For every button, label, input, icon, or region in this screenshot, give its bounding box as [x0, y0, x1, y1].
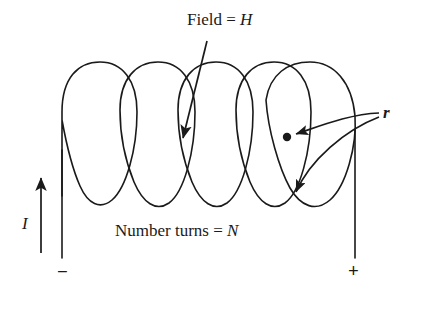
- field-label: Field = H: [187, 11, 252, 28]
- coil-windings: [62, 62, 355, 206]
- positive-terminal-label: +: [348, 261, 359, 280]
- turns-label: Number turns = N: [115, 222, 238, 239]
- radius-symbol-label: r: [383, 104, 390, 121]
- field-label-text: Field =: [187, 10, 240, 29]
- current-symbol-label: I: [22, 215, 28, 232]
- field-symbol: H: [240, 10, 252, 29]
- turns-symbol: N: [227, 221, 238, 240]
- radius-leader-arrow-center: [296, 113, 379, 134]
- turns-label-text: Number turns =: [115, 221, 227, 240]
- solenoid-diagram: Field = H Number turns = N I r − +: [0, 0, 421, 312]
- negative-terminal-label: −: [57, 262, 68, 281]
- coil-center-dot: [283, 133, 291, 141]
- radius-leader-arrow-edge: [296, 117, 379, 192]
